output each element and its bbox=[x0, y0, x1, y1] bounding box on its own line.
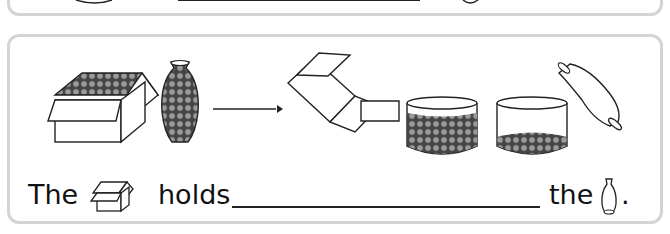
full-vase-icon bbox=[162, 61, 199, 143]
container-many-marbles-icon bbox=[407, 97, 477, 154]
full-box-icon bbox=[48, 73, 158, 142]
right-arrow-icon bbox=[213, 105, 283, 113]
sentence-period: . bbox=[621, 178, 630, 212]
vase-icon bbox=[597, 176, 621, 216]
box-icon bbox=[89, 177, 137, 215]
container-few-marbles-icon bbox=[497, 97, 567, 154]
answer-blank[interactable] bbox=[232, 206, 540, 208]
sentence-word-the: The bbox=[28, 178, 78, 212]
empty-box-tipped-icon bbox=[288, 53, 399, 132]
sentence-word-holds: holds bbox=[158, 178, 230, 212]
sentence-word-the-2: the bbox=[549, 178, 593, 212]
